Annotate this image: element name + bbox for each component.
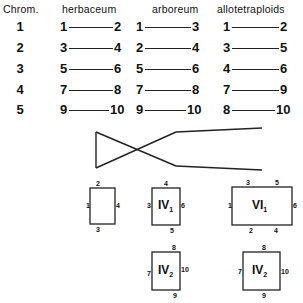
ring-label: 3 [147, 202, 151, 210]
ring-label: 10 [281, 268, 289, 276]
configuration-name: VI1 [252, 198, 267, 213]
config-subscript: 2 [169, 271, 173, 278]
ring-label: 6 [293, 202, 297, 210]
ring-label: 6 [181, 202, 185, 210]
ring-label: 8 [262, 244, 266, 252]
configuration-name: IV2 [158, 263, 173, 278]
ring-label: 10 [181, 266, 189, 274]
config-label: IV [158, 198, 169, 212]
ring-label: 5 [275, 179, 279, 187]
ring-label: 2 [249, 227, 253, 235]
ring-label: 1 [228, 202, 232, 210]
ring-label: 4 [164, 180, 168, 188]
config-subscript: 2 [263, 271, 267, 278]
ring-label: 9 [173, 292, 177, 300]
config-label: IV [158, 263, 169, 277]
ring-label: 2 [96, 180, 100, 188]
ring-label: 4 [274, 227, 278, 235]
config-subscript: 1 [263, 206, 267, 213]
ring-label: 7 [238, 268, 242, 276]
ring-label: 5 [170, 227, 174, 235]
ring-label: 3 [96, 226, 100, 234]
bowtie-figure [0, 0, 303, 303]
ring-label: 3 [246, 179, 250, 187]
ring-label: 7 [147, 270, 151, 278]
ring-label: 8 [172, 244, 176, 252]
config-label: VI [252, 198, 263, 212]
config-label: IV [252, 263, 263, 277]
ring-label: 9 [262, 292, 266, 300]
ring-label: 1 [86, 202, 90, 210]
configuration-name: IV2 [252, 263, 267, 278]
ring-label: 4 [116, 202, 120, 210]
configuration-name: IV1 [158, 198, 173, 213]
config-subscript: 1 [169, 206, 173, 213]
